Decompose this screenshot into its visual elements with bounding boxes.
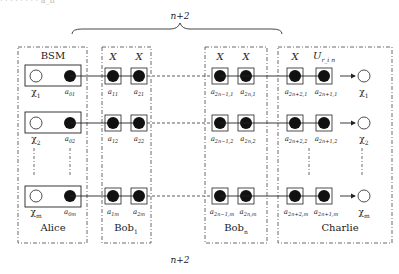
a2n2-1-label: a2n+2,1 [285,88,308,97]
a0m-label: a0m [64,208,76,217]
a2n-1-label: a2n,1 [240,88,255,97]
a2n-1-2-label: a2n−1,2 [211,135,234,144]
bob1-op1-label: X [109,51,116,62]
a2m-label: a2m [133,208,145,217]
bottom-n-plus-2-label: n+2 [170,255,189,265]
a2n-2-label: a2n,2 [240,135,255,144]
a12-label: a12 [108,135,119,144]
a2n2-m-label: a2n+2,m [284,208,308,217]
a2n1-1-label: a2n+1,1 [315,88,338,97]
u-operator-subscript: r_i n [321,56,335,63]
row-1-graphics [25,65,370,86]
a2n1-2-label: a2n+1,2 [315,135,338,144]
a2n-1-1-label: a2n−1,1 [211,88,234,97]
chi-1-output-label: χ1 [359,87,368,99]
chi-2-output-label: χ2 [359,134,368,146]
chi-m-output-label: χm [358,207,369,219]
a02-label: a02 [65,135,76,144]
chi-1-label: χ1 [31,87,40,99]
top-brace-icon [72,23,282,34]
bob1-op2-label: X [135,51,142,62]
charlie-label: Charlie [321,222,358,233]
chi-2-label: χ2 [31,134,40,146]
a11-label: a11 [108,88,119,97]
a2n-1-m-label: a2n−1,m [210,208,234,217]
a2n-m-label: a2n,m [240,208,257,217]
brace-top-label: n+2 [170,11,189,21]
a01-label: a01 [65,88,76,97]
charlie-op2-label: Ur_i n [313,50,335,63]
diagram-canvas: · · · · · · · · a_n n+2 BSM X X X X X Ur… [0,0,399,274]
a2n2-2-label: a2n+2,2 [285,135,308,144]
a1m-label: a1m [107,208,119,217]
bobn-op2-label: X [242,51,249,62]
alice-label: Alice [40,222,65,233]
a22-label: a22 [134,135,145,144]
chi-m-label: χm [30,207,41,219]
bobn-label: Bobn [224,222,248,235]
row-2-graphics [25,112,370,133]
bob1-label: Bob1 [114,222,138,235]
top-cut-text: · · · · · · · · a_n [0,0,399,4]
a2n1-m-label: a2n+1,m [314,208,338,217]
vertical-ellipsis-lines [34,148,362,176]
bobn-op1-label: X [216,51,223,62]
charlie-op1-label: X [291,51,298,62]
row-m-graphics [25,186,370,207]
a21-label: a21 [134,88,145,97]
bsm-label: BSM [41,50,65,61]
